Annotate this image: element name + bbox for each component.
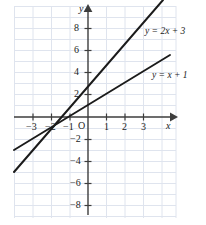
line-y-equals-x-plus-1 <box>14 55 170 150</box>
x-axis-label: x <box>166 121 170 131</box>
y-tick-label-2: 2 <box>74 89 79 99</box>
y-tick-label-neg8: −8 <box>70 200 81 210</box>
x-axis <box>14 113 178 122</box>
equation-label-line-2: y = x + 1 <box>152 71 188 81</box>
y-tick-label-8: 8 <box>74 23 79 33</box>
x-tick-label-2: 2 <box>122 122 127 132</box>
y-tick-label-neg2: −2 <box>70 134 81 144</box>
x-tick-label-neg3: −3 <box>26 122 37 132</box>
x-tick-label-neg2: −2 <box>45 122 56 132</box>
x-tick-label-neg1: −1 <box>63 122 74 132</box>
y-tick-label-4: 4 <box>74 67 79 77</box>
equation-label-line-1: y = 2x + 3 <box>145 27 185 37</box>
y-tick-label-neg6: −6 <box>70 178 81 188</box>
y-axis-label: y <box>79 4 83 14</box>
y-tick-label-neg4: −4 <box>70 156 81 166</box>
y-tick-label-6: 6 <box>74 45 79 55</box>
grid-lines <box>14 6 176 218</box>
x-tick-label-3: 3 <box>141 122 146 132</box>
coordinate-graph-figure: −3 −2 −1 1 2 3 8 6 4 2 −2 −4 −6 −8 O x y… <box>0 0 206 225</box>
origin-label: O <box>78 121 85 131</box>
x-tick-label-1: 1 <box>104 122 109 132</box>
